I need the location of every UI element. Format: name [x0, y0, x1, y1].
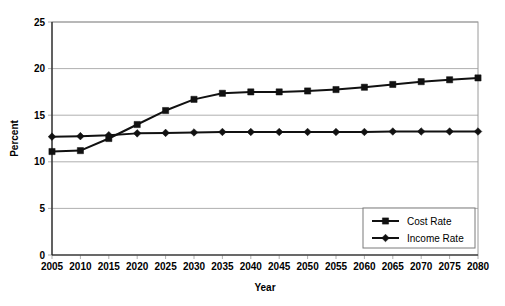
- data-point-cost-rate-2020: [134, 121, 140, 127]
- data-point-cost-rate-2035: [219, 90, 225, 96]
- legend-label-income-rate: Income Rate: [407, 233, 464, 244]
- x-tick-label-2050: 2050: [296, 261, 319, 272]
- data-point-cost-rate-2050: [305, 88, 311, 94]
- data-point-cost-rate-2075: [447, 77, 453, 83]
- x-tick-label-2045: 2045: [268, 261, 291, 272]
- data-point-cost-rate-2045: [276, 89, 282, 95]
- x-tick-label-2010: 2010: [69, 261, 92, 272]
- data-point-cost-rate-2080: [475, 75, 481, 81]
- line-chart: 0510152025200520102015202020252030203520…: [0, 0, 505, 306]
- data-point-income-rate-2065: [389, 128, 397, 136]
- data-point-income-rate-2020: [133, 130, 141, 138]
- chart-container: 0510152025200520102015202020252030203520…: [0, 0, 505, 306]
- data-point-cost-rate-2025: [163, 107, 169, 113]
- x-tick-label-2005: 2005: [41, 261, 64, 272]
- data-point-income-rate-2005: [48, 133, 56, 141]
- x-tick-label-2015: 2015: [98, 261, 121, 272]
- data-point-cost-rate-2005: [49, 148, 55, 154]
- y-axis-title: Percent: [9, 119, 20, 156]
- x-tick-label-2080: 2080: [467, 261, 490, 272]
- data-point-income-rate-2045: [275, 128, 283, 136]
- y-tick-label-15: 15: [34, 110, 46, 121]
- y-tick-label-0: 0: [39, 250, 45, 261]
- y-tick-label-5: 5: [39, 203, 45, 214]
- data-point-cost-rate-2070: [418, 79, 424, 85]
- y-tick-label-10: 10: [34, 156, 46, 167]
- legend-marker-square: [382, 218, 388, 224]
- data-point-cost-rate-2040: [248, 89, 254, 95]
- x-tick-label-2040: 2040: [240, 261, 263, 272]
- x-tick-label-2035: 2035: [211, 261, 234, 272]
- data-point-income-rate-2055: [332, 128, 340, 136]
- x-tick-label-2030: 2030: [183, 261, 206, 272]
- x-tick-label-2055: 2055: [325, 261, 348, 272]
- x-tick-label-2070: 2070: [410, 261, 433, 272]
- data-point-income-rate-2035: [219, 128, 227, 136]
- series-line-cost-rate: [52, 78, 478, 152]
- data-point-income-rate-2050: [304, 128, 312, 136]
- data-point-cost-rate-2065: [390, 81, 396, 87]
- data-point-income-rate-2010: [77, 132, 85, 140]
- data-point-cost-rate-2055: [333, 86, 339, 92]
- data-point-income-rate-2060: [361, 128, 369, 136]
- x-tick-label-2075: 2075: [438, 261, 461, 272]
- y-tick-label-20: 20: [34, 63, 46, 74]
- x-tick-label-2065: 2065: [382, 261, 405, 272]
- x-tick-label-2025: 2025: [154, 261, 177, 272]
- x-tick-label-2020: 2020: [126, 261, 149, 272]
- x-axis-title: Year: [254, 282, 275, 293]
- data-point-income-rate-2025: [162, 129, 170, 137]
- data-point-income-rate-2030: [190, 129, 198, 137]
- data-point-income-rate-2075: [446, 128, 454, 136]
- data-point-income-rate-2040: [247, 128, 255, 136]
- x-tick-label-2060: 2060: [353, 261, 376, 272]
- data-point-income-rate-2080: [474, 128, 482, 136]
- data-point-cost-rate-2010: [77, 148, 83, 154]
- data-point-cost-rate-2030: [191, 96, 197, 102]
- data-point-cost-rate-2060: [361, 84, 367, 90]
- legend-label-cost-rate: Cost Rate: [407, 216, 452, 227]
- data-point-income-rate-2070: [417, 128, 425, 136]
- y-tick-label-25: 25: [34, 17, 46, 28]
